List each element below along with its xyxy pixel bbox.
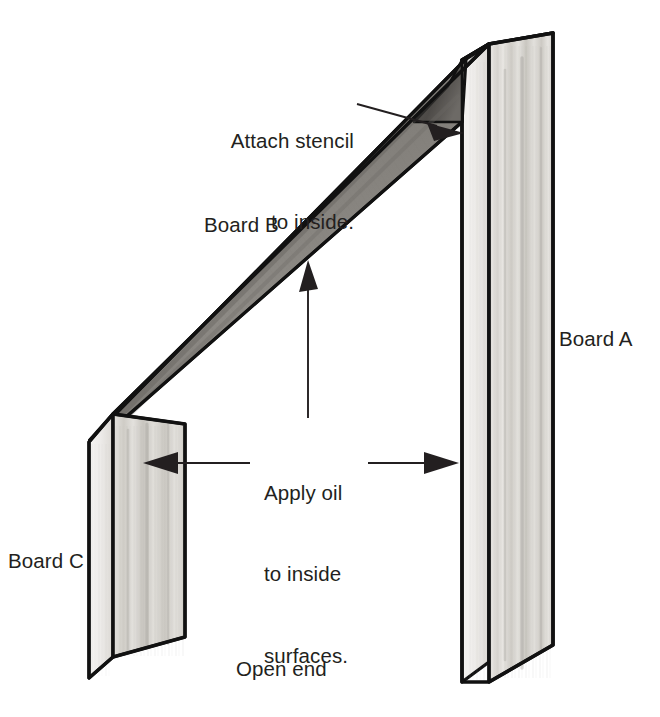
attach-stencil-callout: Attach stencil to inside. [182,72,354,290]
board-a-label: Board A [559,325,633,352]
board-c-label: Board C [8,547,84,574]
board-b-label: Board B [204,211,279,238]
apply-oil-right-arrow [368,452,459,474]
open-end-label: Open end [236,655,327,682]
apply-oil-line-2: to inside [264,560,376,587]
apply-oil-line-1: Apply oil [264,479,376,506]
attach-stencil-line-1: Attach stencil [182,127,354,154]
illustration-figure: Attach stencil to inside. Board B Board … [0,0,660,717]
board-c-shape [89,414,185,678]
board-a-shape [462,33,553,682]
